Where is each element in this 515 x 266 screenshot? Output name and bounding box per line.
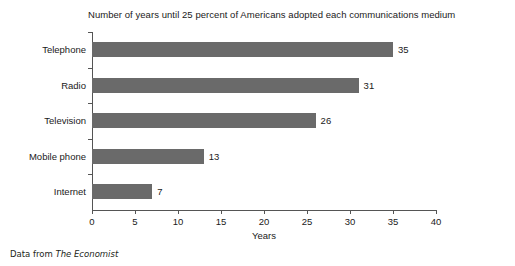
x-axis-tick: [436, 210, 437, 214]
bar-row: Radio31: [92, 68, 436, 104]
x-axis-tick: [393, 210, 394, 214]
bar: [92, 78, 359, 93]
category-label-mobile-phone: Mobile phone: [29, 149, 86, 164]
bar-value-label: 13: [209, 149, 220, 164]
x-axis-tick-label: 20: [259, 216, 270, 227]
source-caption: Data from The Economist: [10, 249, 118, 259]
category-label-telephone: Telephone: [42, 42, 86, 57]
source-prefix: Data from: [10, 249, 55, 259]
bar-value-label: 7: [157, 184, 162, 199]
bar-row: Internet7: [92, 174, 436, 210]
chart-title: Number of years until 25 percent of Amer…: [88, 9, 455, 21]
bar-value-label: 35: [398, 42, 409, 57]
x-axis-tick-label: 0: [89, 216, 94, 227]
x-axis-tick-label: 40: [431, 216, 442, 227]
bar: [92, 184, 152, 199]
x-axis-tick: [135, 210, 136, 214]
y-axis-tick: [88, 68, 92, 69]
x-axis-tick-label: 15: [216, 216, 227, 227]
x-axis-tick-label: 35: [388, 216, 399, 227]
category-label-radio: Radio: [61, 78, 86, 93]
bar-value-label: 26: [321, 113, 332, 128]
x-axis-title: Years: [252, 230, 276, 241]
bar: [92, 113, 316, 128]
bar-row: Television26: [92, 103, 436, 139]
category-label-internet: Internet: [54, 184, 86, 199]
x-axis-tick-label: 5: [132, 216, 137, 227]
x-axis-tick-label: 10: [173, 216, 184, 227]
bar-row: Mobile phone13: [92, 139, 436, 175]
bar: [92, 149, 204, 164]
x-axis-tick: [307, 210, 308, 214]
bar-row: Telephone35: [92, 32, 436, 68]
x-axis-tick: [92, 210, 93, 214]
x-axis-tick-label: 25: [302, 216, 313, 227]
y-axis-tick: [88, 174, 92, 175]
plot-area: Telephone35Radio31Television26Mobile pho…: [92, 32, 436, 210]
x-axis-tick: [264, 210, 265, 214]
source-publication: The Economist: [55, 249, 118, 259]
x-axis-tick: [221, 210, 222, 214]
category-label-television: Television: [44, 113, 86, 128]
x-axis-tick: [350, 210, 351, 214]
y-axis-tick: [88, 103, 92, 104]
x-axis-tick: [178, 210, 179, 214]
y-axis-tick: [88, 32, 92, 33]
x-axis-tick-label: 30: [345, 216, 356, 227]
y-axis-tick: [88, 139, 92, 140]
bar-value-label: 31: [364, 78, 375, 93]
bar: [92, 42, 393, 57]
